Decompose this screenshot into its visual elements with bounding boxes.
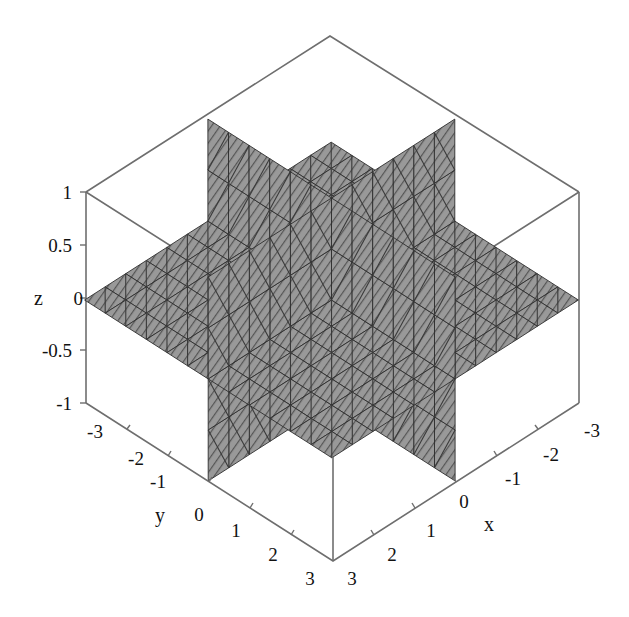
x-tick — [412, 503, 415, 508]
z-tick-label: 0 — [74, 288, 84, 309]
z-tick-label: 1 — [63, 182, 73, 203]
y-tick — [250, 503, 253, 508]
x-axis: 3 2 1 0 -1 -2 -3 x — [347, 420, 600, 589]
x-axis-name: x — [484, 513, 494, 535]
x-tick-label: 1 — [426, 520, 436, 541]
x-tick-label: -3 — [584, 420, 600, 441]
x-tick-label: -1 — [505, 468, 521, 489]
y-tick-label: 3 — [305, 568, 315, 589]
z-tick-label: -1 — [56, 393, 72, 414]
y-tick-label: 2 — [268, 544, 278, 565]
y-tick — [168, 451, 171, 456]
x-tick-label: 3 — [347, 568, 357, 589]
z-tick-label: -0.5 — [42, 340, 72, 361]
x-tick — [494, 451, 497, 456]
plot-3d: 1 0.5 0 -0.5 -1 z -3 -2 -1 0 1 2 3 y 3 2… — [0, 0, 629, 617]
y-tick-label: -3 — [87, 421, 103, 442]
y-axis-name: y — [155, 504, 165, 527]
z-axis-name: z — [34, 287, 43, 309]
y-tick-label: 1 — [231, 520, 241, 541]
y-tick-label: -1 — [150, 471, 166, 492]
x-tick — [371, 530, 374, 535]
y-tick-label: 0 — [194, 504, 204, 525]
y-tick-label: -2 — [128, 448, 144, 469]
x-tick-label: 2 — [387, 544, 397, 565]
z-axis: 1 0.5 0 -0.5 -1 z — [34, 182, 86, 414]
surfaces-group — [85, 119, 579, 481]
y-tick — [127, 425, 130, 429]
x-tick-label: -2 — [543, 444, 559, 465]
x-tick — [535, 425, 538, 429]
x-tick-label: 0 — [459, 491, 469, 512]
y-axis: -3 -2 -1 0 1 2 3 y — [87, 421, 315, 589]
z-tick-label: 0.5 — [48, 235, 72, 256]
